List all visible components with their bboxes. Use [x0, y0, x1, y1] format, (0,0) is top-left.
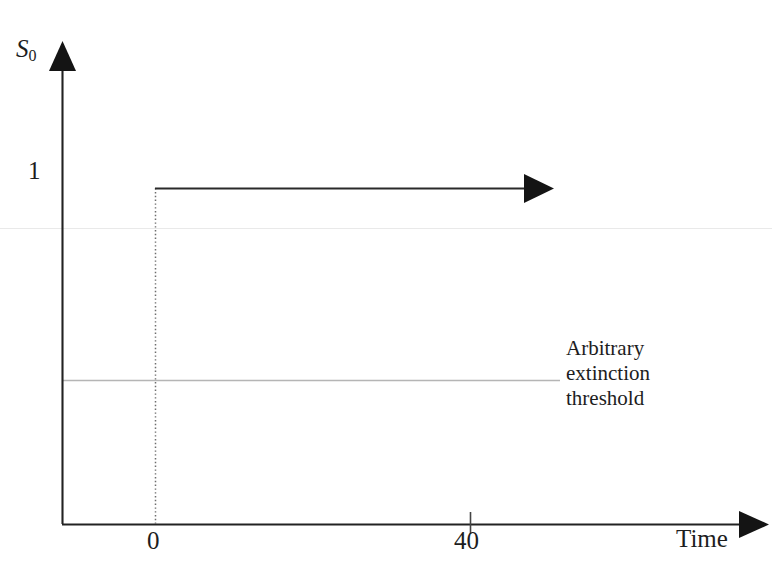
plot-svg [0, 0, 772, 581]
x-tick-label-0: 0 [147, 528, 160, 553]
y-tick-label-1: 1 [28, 158, 41, 183]
annotation-line-3: threshold [566, 386, 650, 411]
x-tick-label-40: 40 [454, 528, 479, 553]
y-axis-label-subscript: 0 [29, 47, 37, 64]
annotation-line-1: Arbitrary [566, 336, 650, 361]
x-axis-arrowhead-icon [739, 511, 769, 538]
y-axis-arrowhead-icon [49, 41, 76, 71]
s0-trajectory-arrowhead-icon [524, 174, 554, 203]
y-axis-label: S0 [16, 36, 37, 64]
extinction-threshold-annotation: Arbitrary extinction threshold [566, 336, 650, 411]
annotation-line-2: extinction [566, 361, 650, 386]
figure-canvas: S0 1 0 40 Time Arbitrary extinction thre… [0, 0, 772, 581]
y-axis-label-symbol: S [16, 35, 29, 62]
x-axis-title: Time [676, 526, 728, 551]
